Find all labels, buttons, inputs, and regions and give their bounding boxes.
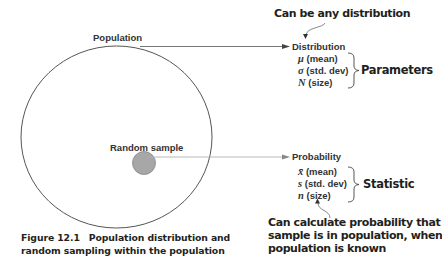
population-arrow <box>140 44 290 49</box>
statistic-brace <box>348 167 359 202</box>
parameter-mean: μ (mean) <box>298 53 338 64</box>
distribution-title: Distribution <box>292 41 345 52</box>
parameter-std-dev: σ (std. dev) <box>298 65 349 76</box>
random-sample-label: Random sample <box>110 142 183 153</box>
sample-arrow <box>148 155 290 160</box>
probability-callout-line-3: population is known <box>268 242 386 255</box>
probability-callout-line-1: Can calculate probability that <box>268 216 440 229</box>
parameter-size: N (size) <box>298 77 333 88</box>
probability-title: Probability <box>292 151 341 162</box>
population-label: Population <box>93 32 142 43</box>
statistic-std-dev: s (std. dev) <box>298 178 347 189</box>
random-sample-circle <box>133 152 156 175</box>
statistic-size: n (size) <box>298 190 331 201</box>
probability-callout-line-2: sample is in population, when <box>268 229 442 242</box>
distribution-callout: Can be any distribution <box>274 7 410 20</box>
parameters-label: Parameters <box>361 63 433 77</box>
population-circle <box>21 46 212 228</box>
figure-caption: Figure 12.1Population distribution and r… <box>21 231 230 257</box>
distribution-callout-arrow <box>303 23 325 39</box>
statistic-label: Statistic <box>363 177 414 191</box>
statistic-mean: x̄ (mean) <box>298 166 337 177</box>
parameters-brace <box>348 53 359 88</box>
figure-number: Figure 12.1 <box>21 232 80 243</box>
